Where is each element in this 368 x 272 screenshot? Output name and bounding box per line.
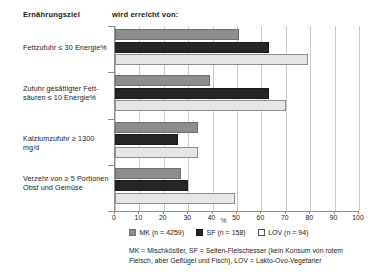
y-tick-mark (108, 211, 114, 212)
bar-mk (115, 122, 198, 133)
x-tick-label: 10 (135, 214, 143, 221)
legend-swatch-sf-icon (196, 229, 203, 236)
x-tick-label: 80 (305, 214, 313, 221)
x-tick-label: 40 (208, 214, 216, 221)
x-tick-label: 50 (232, 214, 240, 221)
x-tick-label: 70 (281, 214, 289, 221)
chart-legend: MK (n = 4259)SF (n = 158)LOV (n = 94) (129, 229, 308, 236)
chart-figure: Ernährungsziel wird erreicht von: Fettzu… (0, 0, 368, 272)
gridline (359, 26, 360, 211)
legend-swatch-lov-icon (258, 229, 265, 236)
bar-group (115, 119, 358, 165)
bar-sf (115, 88, 269, 99)
y-tick-mark (108, 26, 114, 27)
bar-group (115, 72, 358, 118)
y-tick-mark (108, 72, 114, 73)
legend-item: SF (n = 158) (196, 229, 246, 236)
x-tick-label: 0 (112, 214, 116, 221)
bar-group (115, 165, 358, 211)
category-label-column: Fettzufuhr ≤ 30 Energie%Zufuhr gesättigt… (23, 26, 109, 210)
category-label: Fettzufuhr ≤ 30 Energie% (23, 43, 107, 52)
legend-swatch-mk-icon (129, 229, 136, 236)
x-tick-label: 60 (257, 214, 265, 221)
category-label: Zufuhr gesättigter Fett-säuren ≤ 10 Ener… (23, 84, 99, 103)
x-tick-label: 90 (330, 214, 338, 221)
chart-footnote: MK = Mischköstler, SF = Selten-Fleisches… (129, 246, 361, 265)
bar-lov (115, 54, 308, 65)
bar-mk (115, 168, 181, 179)
legend-label: SF (n = 158) (207, 229, 246, 236)
category-label: Verzehr von ≥ 5 PortionenObst und Gemüse (23, 174, 109, 193)
bar-sf (115, 42, 269, 53)
x-tick-label: 20 (159, 214, 167, 221)
x-tick-label: 100 (352, 214, 363, 221)
x-tick-label: 30 (183, 214, 191, 221)
axis-unit-label: % (221, 217, 227, 224)
column-header-goal: Ernährungsziel (23, 10, 80, 19)
column-header-reached-by: wird erreicht von: (112, 10, 178, 19)
bar-lov (115, 100, 286, 111)
plot-area (114, 26, 358, 211)
y-tick-mark (108, 165, 114, 166)
legend-label: LOV (n = 94) (268, 229, 308, 236)
bar-lov (115, 147, 198, 158)
bar-group (115, 26, 358, 72)
legend-item: MK (n = 4259) (129, 229, 184, 236)
bar-lov (115, 193, 235, 204)
y-tick-mark (108, 119, 114, 120)
bar-sf (115, 134, 178, 145)
legend-label: MK (n = 4259) (140, 229, 185, 236)
bar-mk (115, 75, 210, 86)
bar-mk (115, 29, 239, 40)
bar-sf (115, 180, 188, 191)
category-label: Kalziumzufuhr ≥ 1300 mg/d (23, 134, 109, 153)
legend-item: LOV (n = 94) (258, 229, 309, 236)
